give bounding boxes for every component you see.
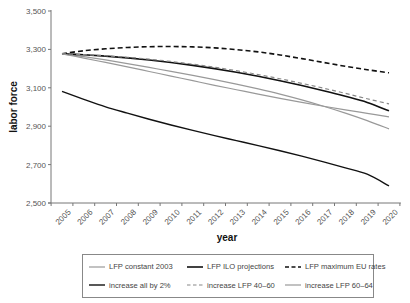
- x-tick-label: 2015: [272, 207, 291, 226]
- legend-item-lfp-constant-2003: LFP constant 2003: [89, 260, 187, 274]
- x-tick-label: 2016: [294, 207, 313, 226]
- legend-item-increase-lfp-40-60: increase LFP 40–60: [187, 279, 285, 293]
- legend-swatch-icon: [187, 281, 203, 289]
- x-tick-label: 2008: [119, 207, 138, 226]
- x-tick-label: 2007: [97, 207, 116, 226]
- x-tick-label: 2009: [141, 207, 160, 226]
- legend-item-increase-all-by-2: increase all by 2%: [89, 279, 187, 293]
- series-line-lfp-constant-2003: [62, 54, 389, 129]
- y-tick-label: 3,100: [26, 84, 47, 93]
- legend-swatch-icon: [89, 281, 105, 289]
- y-tick-label: 2,900: [26, 122, 47, 131]
- x-tick-label: 2005: [54, 207, 73, 226]
- x-tick-label: 2010: [163, 207, 182, 226]
- legend-label: LFP maximum EU rates: [305, 262, 385, 271]
- line-chart: 2,5002,7002,9003,1003,3003,500 200520062…: [0, 0, 410, 252]
- legend-item-increase-lfp-60-64: increase LFP 60–64: [285, 279, 381, 293]
- series-line-increase-lfp-60-64: [62, 54, 389, 117]
- legend-item-lfp-ilo-projections: LFP ILO projections: [187, 260, 285, 274]
- x-axis: 2005200620072008200920102011201220132014…: [48, 203, 401, 227]
- x-axis-title: year: [217, 232, 238, 243]
- x-tick-label: 2019: [359, 207, 378, 226]
- legend-swatch-icon: [285, 281, 301, 289]
- legend-item-lfp-maximum-eu-rates: LFP maximum EU rates: [285, 260, 381, 274]
- x-tick-label: 2020: [381, 207, 400, 226]
- x-tick-label: 2006: [76, 207, 95, 226]
- x-tick-label: 2018: [337, 207, 356, 226]
- y-axis-title: labor force: [8, 81, 19, 133]
- y-tick-label: 2,500: [26, 199, 47, 208]
- y-tick-label: 3,300: [26, 45, 47, 54]
- legend-label: increase LFP 60–64: [305, 281, 373, 290]
- legend-swatch-icon: [187, 263, 203, 271]
- legend-label: increase LFP 40–60: [207, 281, 275, 290]
- y-tick-label: 3,500: [26, 7, 47, 16]
- x-tick-label: 2012: [206, 207, 225, 226]
- y-axis: 2,5002,7002,9003,1003,3003,500: [26, 7, 51, 208]
- series-line-increase-all-by-2: [62, 91, 389, 185]
- chart-legend: LFP constant 2003 LFP ILO projections LF…: [82, 254, 374, 298]
- x-tick-label: 2011: [185, 208, 204, 227]
- legend-label: LFP ILO projections: [207, 262, 274, 271]
- legend-label: increase all by 2%: [109, 281, 171, 290]
- x-tick-label: 2013: [228, 207, 247, 226]
- legend-swatch-icon: [285, 263, 301, 271]
- x-tick-label: 2014: [250, 207, 269, 226]
- legend-swatch-icon: [89, 263, 105, 271]
- plot-lines: [62, 47, 389, 186]
- y-tick-label: 2,700: [26, 161, 47, 170]
- x-tick-label: 2017: [315, 207, 334, 226]
- legend-label: LFP constant 2003: [109, 262, 173, 271]
